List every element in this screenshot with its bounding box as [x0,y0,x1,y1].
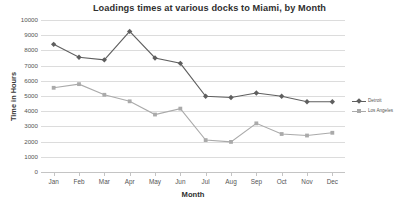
legend-item-los-angeles[interactable]: Los Angeles [352,107,418,115]
gridline [41,172,345,173]
data-point-marker [330,131,334,135]
legend-swatch-icon [352,108,366,115]
x-axis-tick-mark [231,172,232,176]
y-axis-tick-label: 10000 [0,17,38,23]
y-axis-tick-label: 4000 [0,108,38,114]
legend-label: Los Angeles [368,109,393,114]
y-axis-tick-label: 0 [0,169,38,175]
chart-legend: DetroitLos Angeles [352,97,418,117]
data-point-marker [128,99,132,103]
x-axis-tick-mark [79,172,80,176]
y-axis-tick-label: 6000 [0,78,38,84]
x-axis-tick-mark [282,172,283,176]
legend-swatch-icon [352,98,366,105]
data-point-marker [228,95,233,100]
data-point-marker [76,55,81,60]
y-axis-tick-label: 8000 [0,47,38,53]
data-point-marker [51,42,56,47]
data-point-marker [229,140,233,144]
x-axis-tick-mark [155,172,156,176]
x-axis-tick-mark [332,172,333,176]
legend-label: Detroit [368,99,382,104]
data-point-marker [330,99,335,104]
series-los-angeles [52,82,334,144]
data-point-marker [178,107,182,111]
data-point-marker [52,86,56,90]
chart-title: Loadings times at various docks to Miami… [0,3,419,13]
data-point-marker [254,121,258,125]
series-line [54,84,333,142]
x-axis-tick-mark [180,172,181,176]
y-axis-tick-label: 5000 [0,93,38,99]
x-axis-tick-label: Dec [315,178,349,185]
line-chart: Loadings times at various docks to Miami… [0,0,419,207]
y-axis-tick-label: 1000 [0,154,38,160]
data-point-marker [304,99,309,104]
series-detroit [51,29,335,105]
data-point-marker [153,113,157,117]
x-axis-tick-mark [307,172,308,176]
y-axis-tick-label: 2000 [0,139,38,145]
plot-area: 1000090008000700060005000400030002000100… [41,20,345,172]
x-axis-tick-mark [130,172,131,176]
data-point-marker [77,82,81,86]
data-point-marker [204,138,208,142]
data-point-marker [254,90,259,95]
x-axis-tick-mark [104,172,105,176]
y-axis-tick-label: 9000 [0,32,38,38]
data-point-marker [280,132,284,136]
x-axis-tick-mark [54,172,55,176]
x-axis-tick-mark [206,172,207,176]
y-axis-tick-label: 3000 [0,123,38,129]
data-point-marker [102,93,106,97]
data-point-marker [305,134,309,138]
data-point-marker [279,94,284,99]
x-axis-title: Month [41,190,345,199]
series-lines [41,20,345,172]
x-axis-tick-mark [256,172,257,176]
legend-item-detroit[interactable]: Detroit [352,97,418,105]
y-axis-tick-label: 7000 [0,63,38,69]
